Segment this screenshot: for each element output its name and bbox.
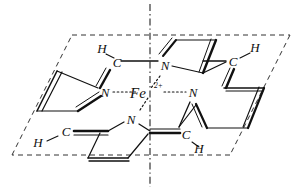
coordination-plane: [12, 35, 290, 155]
bond-tr-ring-1a: [163, 40, 176, 56]
hydrogen-label-bottom-right: H: [193, 141, 204, 156]
nitrogen-label-left: N: [100, 85, 111, 100]
bond-h-cbl: [47, 136, 58, 141]
bond-tl-ring-2b: [42, 72, 62, 111]
structure-drawing: Fe 2+ N N N N C C C C H H H H: [0, 0, 301, 191]
iron-symbol: Fe: [129, 85, 146, 101]
chemical-structure-figure: Fe 2+ N N N N C C C C H H H H: [0, 0, 301, 191]
bond-ctr-h: [240, 53, 250, 58]
ring-bottom-right: [150, 102, 199, 147]
carbon-label-top-left: C: [113, 55, 122, 70]
bond-bl-2: [108, 122, 124, 131]
bond-bl-3: [139, 124, 150, 131]
hydrogen-label-bottom-left: H: [32, 135, 43, 150]
carbon-label-bottom-right: C: [182, 127, 191, 142]
bond-tl-ring-2a: [37, 71, 57, 111]
plane-edge-right: [230, 35, 290, 155]
nitrogen-label-top: N: [160, 58, 171, 73]
bond-bl-4: [88, 133, 100, 158]
carbon-label-bottom-left: C: [62, 124, 71, 139]
nitrogen-label-bottom: N: [126, 112, 137, 127]
bond-tr-ring-4: [172, 66, 203, 73]
nitrogen-label-right: N: [188, 85, 199, 100]
hydrogen-label-top-left: H: [96, 41, 107, 56]
iron-charge: 2+: [154, 81, 163, 90]
iron-center: Fe 2+: [129, 81, 163, 101]
carbon-label-top-right: C: [229, 54, 238, 69]
ring-top-left: [37, 54, 158, 111]
hydrogen-label-top-right: H: [249, 40, 260, 55]
bond-ctr-rightring: [226, 69, 234, 88]
bond-bl-6: [128, 134, 148, 158]
bond-ctl-ring-a2: [96, 68, 106, 86]
bond-tl-ring-1: [57, 71, 98, 88]
